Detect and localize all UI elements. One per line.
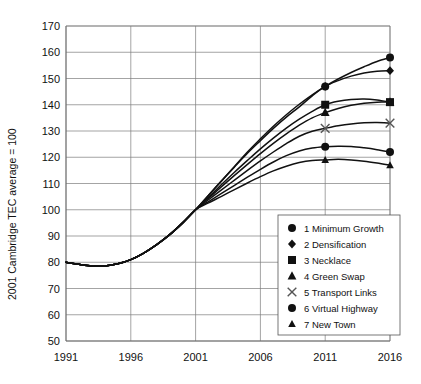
series-marker-circle-icon <box>321 143 329 151</box>
x-tick-label: 1996 <box>119 351 143 363</box>
legend-marker-circle-icon <box>288 304 296 312</box>
chart-legend: 1 Minimum Growth2 Densification3 Necklac… <box>278 215 400 335</box>
y-tick-label: 150 <box>42 73 60 85</box>
legend-item-label: 4 Green Swap <box>304 271 365 282</box>
chart-figure: 5060708090100110120130140150160170 19911… <box>0 0 421 384</box>
legend-item-label: 2 Densification <box>304 239 366 250</box>
y-tick-label: 130 <box>42 125 60 137</box>
y-tick-label: 170 <box>42 20 60 32</box>
x-tick-label: 2001 <box>183 351 207 363</box>
legend-marker-circle-icon <box>288 224 296 232</box>
legend-item-label: 6 Virtual Highway <box>304 303 378 314</box>
x-tick-label: 2016 <box>378 351 402 363</box>
y-tick-label: 100 <box>42 204 60 216</box>
y-tick-label: 70 <box>48 283 60 295</box>
x-axis-tick-labels: 199119962001200620112016 <box>54 351 402 363</box>
legend-item-label: 3 Necklace <box>304 255 351 266</box>
y-tick-label: 80 <box>48 256 60 268</box>
series-marker-circle-icon <box>386 148 394 156</box>
y-tick-label: 110 <box>42 178 60 190</box>
legend-item-label: 1 Minimum Growth <box>304 223 384 234</box>
x-tick-label: 2006 <box>248 351 272 363</box>
x-tick-label: 1991 <box>54 351 78 363</box>
line-chart: 5060708090100110120130140150160170 19911… <box>0 0 421 384</box>
series-marker-diamond-icon <box>386 66 394 75</box>
x-tick-label: 2011 <box>313 351 337 363</box>
y-tick-label: 60 <box>48 309 60 321</box>
y-tick-label: 50 <box>48 335 60 347</box>
series-marker-square-icon <box>321 101 329 109</box>
y-tick-label: 90 <box>48 230 60 242</box>
series-marker-diamond-icon <box>321 82 329 91</box>
series-marker-circle-icon <box>386 54 394 62</box>
y-tick-label: 160 <box>42 46 60 58</box>
y-tick-label: 140 <box>42 99 60 111</box>
legend-item-label: 5 Transport Links <box>304 287 377 298</box>
legend-marker-square-icon <box>288 256 296 264</box>
y-axis-title: 2001 Cambridge TEC average = 100 <box>6 128 18 300</box>
y-tick-label: 120 <box>42 151 60 163</box>
legend-item-label: 7 New Town <box>304 319 356 330</box>
y-axis-tick-labels: 5060708090100110120130140150160170 <box>42 20 60 347</box>
